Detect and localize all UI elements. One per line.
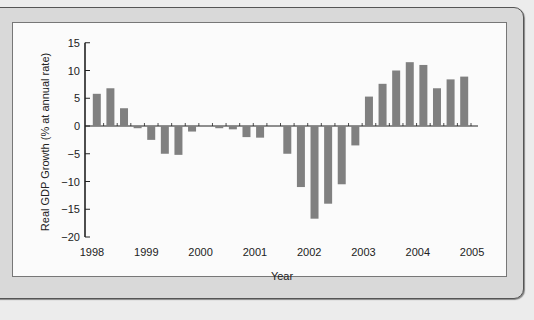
bar-chart: 151050−5−10−15−2019981999200020012002200… [0, 0, 534, 320]
y-tick-label: 15 [68, 37, 80, 49]
y-axis-label: Real GDP Growth (% at annual rate) [39, 53, 51, 231]
y-tick-label: −5 [67, 148, 80, 160]
x-tick-label: 2005 [460, 246, 484, 258]
bar [365, 97, 373, 126]
x-tick-label: 2004 [406, 246, 430, 258]
bar [406, 62, 414, 126]
bar [120, 108, 128, 126]
y-tick-label: 5 [74, 92, 80, 104]
bar [134, 126, 142, 128]
bar [392, 71, 400, 127]
bar [297, 126, 305, 187]
bar [460, 77, 468, 126]
bar [338, 126, 346, 184]
bar [324, 126, 332, 204]
x-tick-label: 2003 [351, 246, 375, 258]
bar [147, 126, 155, 140]
x-tick-label: 2002 [297, 246, 321, 258]
y-tick-label: 10 [68, 65, 80, 77]
y-tick-label: −10 [61, 176, 80, 188]
bar [256, 126, 264, 138]
bar [242, 126, 250, 137]
bar [311, 126, 319, 219]
x-tick-label: 1998 [80, 246, 104, 258]
bar [283, 126, 291, 154]
y-tick-label: 0 [74, 120, 80, 132]
bar [93, 94, 101, 126]
bar [215, 126, 223, 128]
bar [419, 65, 427, 126]
x-tick-label: 1999 [134, 246, 158, 258]
bar [433, 88, 441, 126]
bar [161, 126, 169, 154]
bar [379, 84, 387, 126]
bar [174, 126, 182, 155]
bar [447, 79, 455, 126]
bar [106, 88, 114, 126]
x-tick-label: 2000 [188, 246, 212, 258]
bar [188, 126, 196, 132]
y-tick-label: −15 [61, 203, 80, 215]
y-tick-label: −20 [61, 231, 80, 243]
bar [229, 126, 237, 129]
x-axis-label: Year [271, 270, 294, 282]
x-tick-label: 2001 [243, 246, 267, 258]
bar [351, 126, 359, 145]
